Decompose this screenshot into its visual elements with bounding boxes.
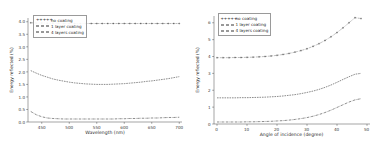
series-marker xyxy=(156,23,158,25)
legend-label-4-layers: 4 layers coating xyxy=(236,28,269,33)
x-tick-label: 40 xyxy=(332,127,342,132)
series-marker xyxy=(306,48,308,50)
series-line-1-layer-coating xyxy=(31,71,180,85)
legend-label-no-coating: no coating xyxy=(236,16,258,21)
series-marker xyxy=(246,56,248,58)
legend-swatch-4-layers xyxy=(36,29,49,35)
x-axis-label-left: Wavelength (nm) xyxy=(28,130,182,135)
series-line-4-layers-coating xyxy=(217,99,361,122)
y-tick-label: 4 xyxy=(198,54,211,59)
series-marker xyxy=(276,54,278,56)
series-marker xyxy=(101,23,103,25)
x-tick-label: 500 xyxy=(64,125,74,130)
series-marker xyxy=(178,23,180,25)
y-tick-label: 1.0 xyxy=(12,95,25,100)
series-marker xyxy=(258,56,260,58)
y-tick-label: 4.0 xyxy=(12,19,25,24)
y-tick-label: 3.5 xyxy=(12,32,25,37)
legend-label-1-layer: 1 layer coating xyxy=(51,24,82,29)
y-tick-label: 2.5 xyxy=(12,57,25,62)
series-marker xyxy=(167,23,169,25)
series-marker xyxy=(282,54,284,56)
series-marker xyxy=(270,55,272,57)
series-marker xyxy=(112,23,114,25)
x-tick-label: 550 xyxy=(92,125,102,130)
series-marker xyxy=(336,32,338,34)
panel-wavelength: +++++ no coating 1 layer coating 4 layer… xyxy=(0,0,192,151)
y-tick-label: 0.5 xyxy=(12,107,25,112)
series-line-1-layer-coating xyxy=(217,73,361,97)
legend-label-no-coating: no coating xyxy=(51,18,73,23)
x-tick-label: 20 xyxy=(272,127,282,132)
x-tick-label: 0 xyxy=(212,127,222,132)
y-tick-label: 2.0 xyxy=(12,70,25,75)
series-line-4-layers-coating xyxy=(31,111,180,119)
y-tick-label: 2 xyxy=(198,88,211,93)
legend-swatch-4-layers xyxy=(221,28,234,34)
x-tick-label: 30 xyxy=(302,127,312,132)
series-marker xyxy=(222,57,224,59)
x-tick-label: 650 xyxy=(147,125,157,130)
x-axis-label-right: Angle of incidence (degree) xyxy=(214,132,370,137)
series-marker xyxy=(134,23,136,25)
legend-left: +++++ no coating 1 layer coating 4 layer… xyxy=(33,15,87,38)
series-marker xyxy=(216,57,218,59)
series-marker xyxy=(360,18,362,20)
series-marker xyxy=(107,23,109,25)
series-marker xyxy=(288,53,290,55)
series-marker xyxy=(173,23,175,25)
legend-label-1-layer: 1 layer coating xyxy=(236,22,267,27)
series-marker xyxy=(96,23,98,25)
series-marker xyxy=(252,56,254,58)
figure-two-panel-reflectance: +++++ no coating 1 layer coating 4 layer… xyxy=(0,0,383,151)
y-tick-label: 0.0 xyxy=(12,120,25,125)
series-marker xyxy=(240,57,242,59)
series-marker xyxy=(123,23,125,25)
x-tick-label: 10 xyxy=(242,127,252,132)
series-marker xyxy=(300,50,302,52)
panel-angle: +++++ no coating 1 layer coating 4 layer… xyxy=(192,0,383,151)
series-marker xyxy=(151,23,153,25)
legend-right: +++++ no coating 1 layer coating 4 layer… xyxy=(218,13,272,36)
series-marker xyxy=(312,45,314,47)
y-tick-label: 5 xyxy=(198,37,211,42)
series-marker xyxy=(228,57,230,59)
series-marker xyxy=(162,23,164,25)
series-marker xyxy=(90,23,92,25)
x-tick-label: 600 xyxy=(119,125,129,130)
y-tick-label: 3 xyxy=(198,71,211,76)
series-marker xyxy=(118,23,120,25)
series-marker xyxy=(129,23,131,25)
x-tick-label: 50 xyxy=(362,127,372,132)
series-marker xyxy=(30,22,32,24)
legend-item-4-layers: 4 layers coating xyxy=(221,28,269,34)
x-tick-label: 700 xyxy=(174,125,184,130)
series-marker xyxy=(294,51,296,53)
y-tick-label: 1 xyxy=(198,105,211,110)
series-marker xyxy=(145,23,147,25)
series-marker xyxy=(264,56,266,58)
y-tick-label: 6 xyxy=(198,20,211,25)
series-marker xyxy=(318,43,320,45)
y-tick-label: 1.5 xyxy=(12,82,25,87)
series-marker xyxy=(234,57,236,59)
y-tick-label: 0 xyxy=(198,122,211,127)
legend-label-4-layers: 4 layers coating xyxy=(51,30,84,35)
legend-item-4-layers: 4 layers coating xyxy=(36,29,84,35)
series-marker xyxy=(140,23,142,25)
x-tick-label: 450 xyxy=(37,125,47,130)
y-tick-label: 3.0 xyxy=(12,45,25,50)
